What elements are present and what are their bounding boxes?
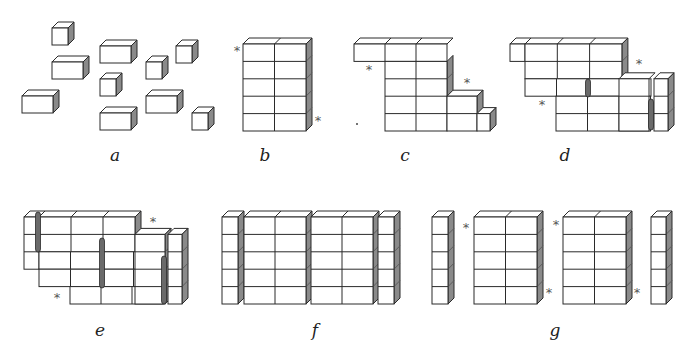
panel-label-b: b bbox=[260, 145, 271, 165]
loose-block-7 bbox=[22, 90, 59, 113]
panel-label-e: e bbox=[95, 320, 105, 340]
panel-d-connector-rod-2 bbox=[649, 99, 654, 130]
diagram-canvas bbox=[0, 0, 690, 355]
panel-c-block-1 bbox=[354, 38, 453, 61]
panel-c-block-4 bbox=[477, 108, 496, 131]
panel-d-block-2 bbox=[525, 38, 628, 79]
asterisk-marker: * bbox=[463, 221, 470, 234]
loose-block-10 bbox=[192, 107, 214, 130]
asterisk-marker: * bbox=[366, 63, 373, 76]
panel-f-block-2 bbox=[244, 211, 312, 304]
panel-e-connector-rod-3 bbox=[36, 212, 41, 252]
panel-d-connector-rod-1 bbox=[586, 79, 591, 97]
loose-block-5 bbox=[146, 56, 168, 79]
panel-e-connector-rod-5 bbox=[162, 256, 167, 304]
panel-label-c: c bbox=[400, 145, 410, 165]
panel-label-f: f bbox=[312, 320, 318, 340]
asterisk-marker: * bbox=[234, 44, 241, 57]
panel-label-a: a bbox=[110, 145, 120, 165]
panel-g-block-3 bbox=[563, 211, 632, 304]
loose-block-9 bbox=[100, 107, 137, 130]
asterisk-marker: * bbox=[634, 286, 641, 299]
panel-e-block-7 bbox=[168, 228, 188, 304]
block-construction-figure: ************ a b c d e f g bbox=[0, 0, 690, 355]
panel-f-block-4 bbox=[378, 211, 400, 304]
asterisk-marker: * bbox=[546, 286, 553, 299]
panel-e-block-2 bbox=[39, 211, 141, 252]
loose-block-2 bbox=[100, 40, 137, 63]
asterisk-marker: * bbox=[464, 76, 471, 89]
panel-b-block-1 bbox=[243, 38, 312, 131]
asterisk-marker: * bbox=[553, 218, 560, 231]
asterisk-marker: * bbox=[539, 98, 546, 111]
asterisk-marker: * bbox=[315, 114, 322, 127]
loose-block-3 bbox=[176, 40, 198, 63]
panel-g-block-2 bbox=[474, 211, 543, 304]
asterisk-marker: * bbox=[150, 215, 157, 228]
panel-c-block-2 bbox=[385, 55, 453, 131]
panel-f-block-3 bbox=[311, 211, 379, 304]
panel-g-block-1 bbox=[432, 211, 454, 304]
panel-e-connector-rod-4 bbox=[100, 238, 105, 288]
loose-block-8 bbox=[146, 90, 183, 113]
panel-label-d: d bbox=[560, 145, 571, 165]
asterisk-marker: * bbox=[54, 291, 61, 304]
loose-block-4 bbox=[52, 56, 89, 79]
dot-marker bbox=[356, 123, 358, 125]
panel-f-block-1 bbox=[222, 211, 244, 304]
panel-g-block-4 bbox=[651, 211, 672, 304]
loose-block-6 bbox=[100, 73, 122, 96]
loose-block-1 bbox=[52, 22, 74, 45]
asterisk-marker: * bbox=[636, 57, 643, 70]
panel-label-g: g bbox=[550, 320, 561, 340]
panel-d-block-6 bbox=[654, 73, 674, 131]
